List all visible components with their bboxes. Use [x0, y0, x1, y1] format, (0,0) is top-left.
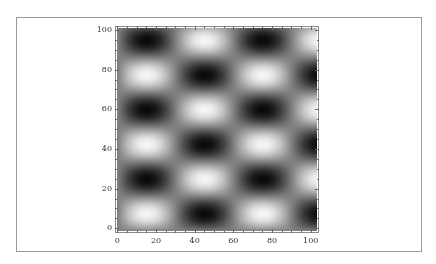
- y-tick-mark: [115, 109, 119, 110]
- x-tick-mark: [224, 231, 225, 233]
- y-tick-mark: [315, 30, 319, 31]
- y-tick-mark: [115, 179, 117, 180]
- x-tick-mark: [311, 26, 312, 30]
- y-tick-label: 40: [92, 145, 112, 153]
- x-tick-label: 40: [185, 237, 205, 245]
- x-tick-label: 80: [262, 237, 282, 245]
- x-tick-mark: [253, 231, 254, 233]
- x-tick-mark: [166, 26, 167, 28]
- y-tick-mark: [115, 30, 119, 31]
- y-tick-mark: [317, 139, 319, 140]
- x-tick-mark: [156, 26, 157, 30]
- x-tick-mark: [253, 26, 254, 28]
- y-tick-mark: [115, 189, 119, 190]
- y-tick-mark: [317, 159, 319, 160]
- x-tick-mark: [233, 229, 234, 233]
- x-tick-mark: [311, 229, 312, 233]
- y-tick-mark: [317, 129, 319, 130]
- x-tick-mark: [301, 231, 302, 233]
- y-tick-mark: [115, 89, 117, 90]
- x-tick-mark: [195, 229, 196, 233]
- x-tick-mark: [243, 26, 244, 28]
- y-tick-mark: [317, 208, 319, 209]
- x-tick-mark: [214, 231, 215, 233]
- y-tick-mark: [115, 99, 117, 100]
- y-tick-mark: [315, 189, 319, 190]
- y-tick-mark: [317, 218, 319, 219]
- y-tick-mark: [317, 99, 319, 100]
- x-tick-mark: [137, 231, 138, 233]
- y-tick-label: 60: [92, 105, 112, 113]
- y-tick-mark: [115, 139, 117, 140]
- y-tick-mark: [317, 50, 319, 51]
- y-tick-mark: [115, 50, 117, 51]
- y-tick-mark: [317, 89, 319, 90]
- x-tick-mark: [117, 26, 118, 30]
- x-tick-mark: [282, 26, 283, 28]
- y-tick-mark: [317, 199, 319, 200]
- y-tick-mark: [115, 70, 119, 71]
- y-tick-mark: [115, 169, 117, 170]
- y-tick-mark: [115, 208, 117, 209]
- x-tick-mark: [127, 26, 128, 28]
- x-tick-mark: [243, 231, 244, 233]
- x-tick-mark: [146, 231, 147, 233]
- y-tick-mark: [115, 60, 117, 61]
- x-tick-mark: [156, 229, 157, 233]
- x-tick-label: 100: [301, 237, 321, 245]
- x-tick-mark: [272, 26, 273, 30]
- y-tick-mark: [115, 119, 117, 120]
- x-tick-mark: [224, 26, 225, 28]
- y-tick-mark: [317, 80, 319, 81]
- y-tick-mark: [115, 199, 117, 200]
- x-tick-mark: [214, 26, 215, 28]
- x-tick-mark: [301, 26, 302, 28]
- x-tick-mark: [146, 26, 147, 28]
- x-tick-label: 20: [146, 237, 166, 245]
- y-tick-mark: [317, 40, 319, 41]
- y-tick-label: 20: [92, 185, 112, 193]
- x-tick-mark: [137, 26, 138, 28]
- y-tick-mark: [317, 119, 319, 120]
- y-tick-mark: [315, 149, 319, 150]
- x-tick-mark: [291, 231, 292, 233]
- y-tick-label: 100: [92, 26, 112, 34]
- y-tick-mark: [315, 228, 319, 229]
- y-tick-mark: [317, 169, 319, 170]
- y-tick-mark: [317, 60, 319, 61]
- x-tick-mark: [195, 26, 196, 30]
- x-tick-mark: [204, 26, 205, 28]
- x-tick-label: 60: [223, 237, 243, 245]
- x-tick-mark: [272, 229, 273, 233]
- x-tick-mark: [185, 231, 186, 233]
- y-tick-mark: [115, 159, 117, 160]
- x-tick-mark: [282, 231, 283, 233]
- x-tick-mark: [127, 231, 128, 233]
- x-tick-mark: [185, 26, 186, 28]
- y-tick-label: 80: [92, 66, 112, 74]
- x-tick-mark: [175, 231, 176, 233]
- density-plot: [117, 28, 317, 231]
- y-tick-mark: [315, 70, 319, 71]
- y-tick-mark: [317, 179, 319, 180]
- y-tick-mark: [115, 149, 119, 150]
- x-tick-mark: [233, 26, 234, 30]
- x-tick-mark: [166, 231, 167, 233]
- y-tick-mark: [115, 40, 117, 41]
- x-tick-mark: [204, 231, 205, 233]
- x-tick-mark: [291, 26, 292, 28]
- x-tick-mark: [117, 229, 118, 233]
- x-tick-label: 0: [107, 237, 127, 245]
- y-tick-mark: [115, 129, 117, 130]
- x-tick-mark: [175, 26, 176, 28]
- x-tick-mark: [262, 231, 263, 233]
- y-tick-mark: [315, 109, 319, 110]
- y-tick-mark: [115, 80, 117, 81]
- x-tick-mark: [262, 26, 263, 28]
- y-tick-label: 0: [92, 224, 112, 232]
- y-tick-mark: [115, 218, 117, 219]
